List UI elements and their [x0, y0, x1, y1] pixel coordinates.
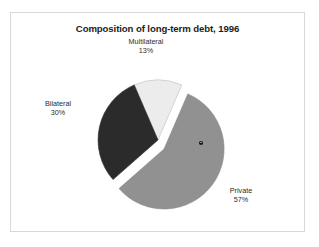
figure-canvas: Composition of long-term debt, 1996 Mult… [0, 0, 319, 247]
pie-label-bilateral: Bilateral 30% [22, 99, 94, 118]
pie-label-bilateral-value: 30% [22, 108, 94, 117]
pie-label-private-name: Private [208, 186, 274, 195]
pie-label-private-value: 57% [208, 195, 274, 204]
pie-label-bilateral-name: Bilateral [22, 99, 94, 108]
private-slice-dot-highlight-icon [200, 142, 201, 143]
pie-label-multilateral-value: 13% [98, 46, 194, 55]
pie-label-private: Private 57% [208, 186, 274, 205]
pie-label-multilateral-name: Multilateral [98, 37, 194, 46]
pie-label-multilateral: Multilateral 13% [98, 37, 194, 56]
